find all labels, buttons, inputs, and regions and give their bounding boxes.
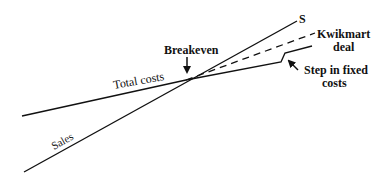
step-arrow-icon <box>289 61 298 70</box>
kwikmart-label-line1: Kwikmart <box>317 27 370 41</box>
total-costs-label: Total costs <box>112 69 165 92</box>
step-label-line1: Step in fixed <box>304 63 368 77</box>
sales-line <box>24 21 297 172</box>
step-label-line2: costs <box>322 76 347 90</box>
kwikmart-label-line2: deal <box>333 40 355 54</box>
breakeven-label: Breakeven <box>164 43 219 57</box>
s-end-label: S <box>299 12 306 26</box>
sales-label: Sales <box>49 130 75 152</box>
breakeven-diagram: Breakeven Total costs Sales S Kwikmart d… <box>0 0 388 183</box>
